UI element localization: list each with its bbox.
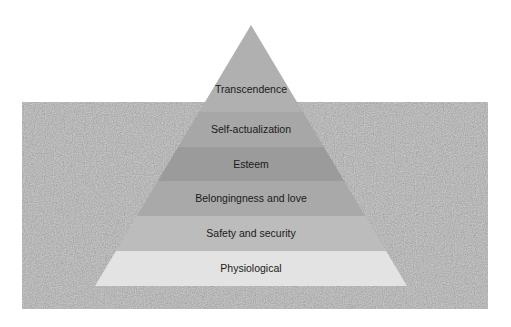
pyramid-level-label: Transcendence: [215, 83, 287, 95]
pyramid-level-label: Physiological: [220, 262, 281, 274]
pyramid-level-transcendence: [199, 25, 303, 112]
hierarchy-pyramid-diagram: TranscendenceSelf-actualizationEsteemBel…: [0, 0, 511, 327]
pyramid-level-label: Self-actualization: [211, 123, 291, 135]
pyramid-level-label: Safety and security: [206, 227, 296, 239]
pyramid-level-label: Belongingness and love: [195, 192, 307, 204]
pyramid-level-label: Esteem: [233, 158, 269, 170]
